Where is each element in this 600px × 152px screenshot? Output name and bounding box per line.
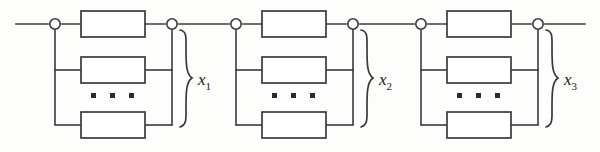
stage-3-block-1 xyxy=(447,11,511,37)
stage-3-brace xyxy=(546,30,558,127)
stage-3-left-node xyxy=(416,19,426,29)
stage-1-ellipsis xyxy=(91,93,134,98)
stage-2-brace xyxy=(361,30,373,127)
stage-1-group: x1 xyxy=(50,11,211,138)
stage-1-label-sub: 1 xyxy=(206,80,212,92)
stage-3-ellipsis xyxy=(457,93,500,98)
stage-1-block-3 xyxy=(81,112,145,138)
stage-2-group: x2 xyxy=(231,11,392,138)
stage-2-label: x2 xyxy=(378,70,392,92)
stage-2-right-node xyxy=(348,19,358,29)
stage-3-block-2 xyxy=(447,57,511,83)
reliability-block-diagram: x1 x2 xyxy=(0,0,600,152)
stage-1-brace xyxy=(180,30,192,127)
stage-3-right-node xyxy=(533,19,543,29)
diagram-canvas: x1 x2 xyxy=(0,0,600,152)
stage-2-block-1 xyxy=(262,11,326,37)
stage-3-block-3 xyxy=(447,112,511,138)
stage-2-block-2 xyxy=(262,57,326,83)
stage-1-block-1 xyxy=(81,11,145,37)
stage-2-label-sub: 2 xyxy=(387,80,393,92)
stage-3-label-sub: 3 xyxy=(572,80,578,92)
stage-1-block-2 xyxy=(81,57,145,83)
stage-1-right-node xyxy=(167,19,177,29)
stage-1-label: x1 xyxy=(197,70,211,92)
stage-3-label: x3 xyxy=(563,70,578,92)
stage-2-block-3 xyxy=(262,112,326,138)
stage-3-group: x3 xyxy=(416,11,578,138)
stage-1-left-node xyxy=(50,19,60,29)
stage-2-ellipsis xyxy=(272,93,315,98)
stage-2-left-node xyxy=(231,19,241,29)
